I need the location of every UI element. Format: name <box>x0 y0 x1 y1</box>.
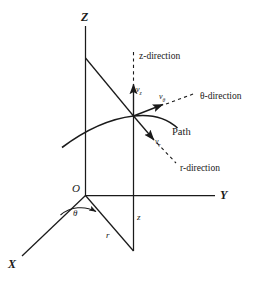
theta-direction-dashed-line <box>166 93 196 104</box>
v-r-arrow <box>134 116 155 140</box>
v-r-subscript: r <box>159 142 161 148</box>
v-theta-label: vθ <box>159 93 165 103</box>
v-z-subscript: z <box>140 90 142 96</box>
x-axis <box>22 196 86 257</box>
v-r-label: vr <box>155 138 161 148</box>
diagram-canvas <box>0 0 257 283</box>
z-axis-label: Z <box>81 11 88 23</box>
height-label: z <box>137 213 141 222</box>
r-direction-label: r-direction <box>180 164 220 174</box>
radius-label: r <box>106 231 110 240</box>
plane-upper-edge <box>86 58 134 116</box>
x-axis-label: X <box>8 258 16 270</box>
angle-label: θ <box>73 209 77 218</box>
z-direction-label: z-direction <box>139 52 180 62</box>
v-theta-subscript: θ <box>163 97 166 103</box>
v-theta-arrow <box>134 105 164 117</box>
cylindrical-coordinates-diagram: Z Y X O z-direction θ-direction r-direct… <box>0 0 257 283</box>
theta-direction-label: θ-direction <box>200 92 241 102</box>
path-label: Path <box>172 127 191 138</box>
v-z-label: vz <box>136 86 142 96</box>
y-axis-label: Y <box>220 189 227 201</box>
radius-line <box>86 196 134 252</box>
origin-label: O <box>72 183 80 194</box>
